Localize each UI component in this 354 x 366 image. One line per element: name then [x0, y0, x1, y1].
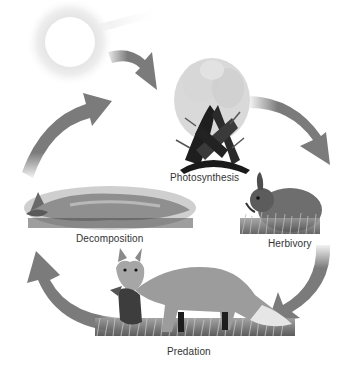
dead-fox-image	[24, 186, 196, 230]
predation-label: Predation	[167, 346, 211, 357]
arrow-photosynthesis-to-herbivory	[250, 96, 330, 165]
photosynthesis-label: Photosynthesis	[170, 172, 239, 183]
diagram-graphics	[0, 0, 354, 366]
energy-cycle-diagram: Photosynthesis Herbivory Predation Decom…	[0, 0, 354, 366]
decomposition-label: Decomposition	[76, 233, 143, 244]
rabbit-image	[240, 172, 322, 234]
arrow-sun-to-photosynthesis	[108, 50, 157, 90]
fox-with-prey-image	[95, 248, 295, 336]
arrow-herbivory-to-predation	[268, 245, 330, 322]
arrow-decomposition-to-sun	[22, 93, 112, 178]
plant-image	[174, 58, 250, 174]
herbivory-label: Herbivory	[268, 238, 312, 249]
